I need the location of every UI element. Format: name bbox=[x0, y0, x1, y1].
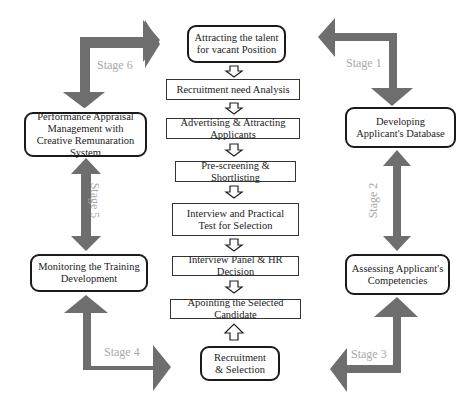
step-interview-practical-test: Interview and Practical Test for Selecti… bbox=[172, 203, 299, 236]
step-label: Interview Panel & HR Decision bbox=[173, 254, 298, 278]
developing-database-box: Developing Applicant's Database bbox=[345, 107, 456, 148]
assessing-competencies-box: Assessing Applicant's Competencies bbox=[345, 254, 450, 295]
attracting-talent-label: Attracting the talent for vacant Positio… bbox=[189, 32, 284, 56]
stage-4-label: Stage 4 bbox=[104, 345, 140, 360]
down-arrow-2 bbox=[226, 103, 242, 114]
stage3-arrow bbox=[330, 297, 418, 392]
performance-appraisal-label: Performance Appraisal Management with Cr… bbox=[32, 111, 139, 159]
up-arrow-bottom bbox=[225, 324, 243, 340]
down-arrow-1 bbox=[226, 66, 242, 77]
step-recruitment-need-analysis: Recruitment need Analysis bbox=[166, 79, 300, 100]
down-arrow-5 bbox=[226, 239, 242, 251]
step-label: Advertising & Attracting Applicants bbox=[167, 117, 299, 141]
monitoring-training-label: Monitoring the Training Development bbox=[38, 261, 140, 285]
step-label: Recruitment need Analysis bbox=[176, 84, 289, 96]
stage-2-label: Stage 2 bbox=[366, 183, 381, 219]
stage-3-label: Stage 3 bbox=[351, 347, 387, 362]
step-label: Apointing the Selected Candidate bbox=[171, 297, 300, 321]
assessing-competencies-label: Assessing Applicant's Competencies bbox=[351, 263, 444, 287]
monitoring-training-box: Monitoring the Training Development bbox=[30, 254, 148, 292]
step-label: Pre-screening & Shortlisting bbox=[176, 160, 295, 184]
stage2-arrow bbox=[383, 150, 411, 251]
attracting-talent-box: Attracting the talent for vacant Positio… bbox=[187, 25, 286, 63]
performance-appraisal-box: Performance Appraisal Management with Cr… bbox=[24, 112, 147, 157]
down-arrow-3 bbox=[226, 144, 242, 156]
down-arrow-4 bbox=[226, 186, 242, 198]
step-appointing: Apointing the Selected Candidate bbox=[170, 299, 301, 319]
recruitment-selection-label: Recruitment & Selection bbox=[214, 352, 266, 376]
stage-6-label: Stage 6 bbox=[97, 58, 133, 73]
stage4-arrow bbox=[64, 295, 171, 391]
down-arrow-6 bbox=[226, 281, 242, 293]
step-label: Interview and Practical Test for Selecti… bbox=[183, 208, 288, 232]
step-prescreening: Pre-screening & Shortlisting bbox=[175, 161, 296, 182]
step-advertising: Advertising & Attracting Applicants bbox=[166, 118, 300, 139]
stage-5-label: Stage 5 bbox=[87, 183, 102, 219]
step-interview-panel: Interview Panel & HR Decision bbox=[172, 256, 299, 276]
developing-database-label: Developing Applicant's Database bbox=[355, 116, 446, 140]
stage-1-label: Stage 1 bbox=[346, 56, 382, 71]
recruitment-selection-box: Recruitment & Selection bbox=[200, 346, 280, 381]
